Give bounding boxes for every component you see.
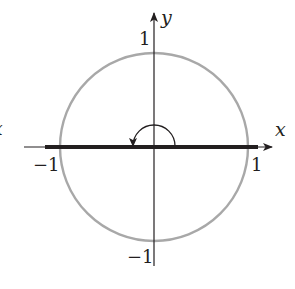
y-axis-label: y [160, 6, 172, 28]
x-tick-neg: −1 [33, 154, 60, 175]
x-tick-pos: 1 [251, 154, 262, 175]
x-axis-label: x [275, 118, 286, 140]
unit-circle-diagram: y x 1 −1 −1 1 x [0, 0, 295, 289]
clipped-label-fragment: x [0, 117, 3, 139]
y-tick-pos: 1 [139, 28, 150, 49]
y-tick-neg: −1 [127, 246, 154, 267]
